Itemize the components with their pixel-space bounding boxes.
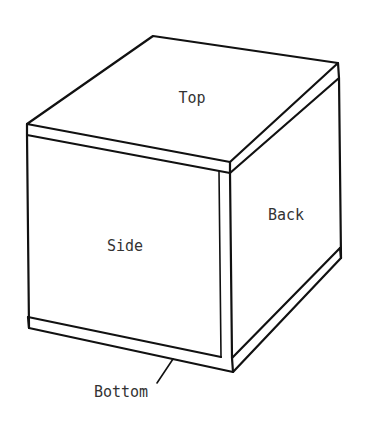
top-label: Top — [178, 89, 205, 107]
bottom-label: Bottom — [94, 383, 148, 401]
bottom-leader-line — [157, 359, 173, 383]
side-label: Side — [107, 237, 143, 255]
back-label: Back — [268, 206, 304, 224]
top-panel-right-edge — [230, 63, 339, 173]
bottom-panel-corner-edge — [232, 358, 233, 372]
side-panel-inner-edge — [219, 171, 221, 357]
side-panel-front-edge — [230, 173, 232, 358]
top-panel-front-edge — [27, 124, 230, 173]
side-panel-left-edge — [27, 135, 29, 328]
bottom-panel-top-edge — [28, 317, 221, 357]
box-diagram — [0, 0, 365, 422]
bottom-panel-front-edge — [28, 248, 341, 372]
bottom-panel-inner-right-edge — [232, 248, 340, 358]
back-panel-right-edge — [339, 78, 341, 258]
